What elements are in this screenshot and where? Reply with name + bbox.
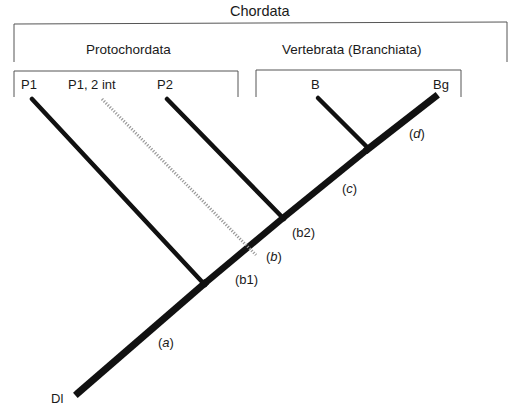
branch-p2 bbox=[167, 99, 284, 219]
node-b2-label: (b2) bbox=[292, 226, 315, 239]
vertebrata-label: Vertebrata (Branchiata) bbox=[282, 43, 422, 57]
trunk-d bbox=[368, 97, 435, 149]
vertebrata-bracket bbox=[256, 70, 461, 97]
taxon-bg: Bg bbox=[433, 78, 449, 91]
chordata-label: Chordata bbox=[230, 4, 290, 19]
node-d-label: (d) bbox=[409, 127, 425, 140]
branch-p1-2int-dotted bbox=[102, 99, 256, 255]
cladogram-canvas bbox=[0, 0, 519, 412]
node-c-label: (c) bbox=[342, 182, 357, 195]
branch-p1 bbox=[32, 99, 205, 285]
taxon-p1: P1 bbox=[21, 78, 37, 91]
branch-b bbox=[318, 98, 369, 149]
trunk-a bbox=[78, 284, 204, 393]
node-a-label: (a) bbox=[158, 336, 174, 349]
protochordata-bracket bbox=[14, 71, 238, 97]
taxon-b: B bbox=[311, 78, 320, 91]
taxon-p1-2int: P1, 2 int bbox=[68, 78, 116, 91]
node-b1-label: (b1) bbox=[235, 273, 258, 286]
taxon-dl: Dl bbox=[51, 392, 63, 405]
protochordata-label: Protochordata bbox=[86, 43, 171, 57]
node-b-label: (b) bbox=[266, 250, 282, 263]
taxon-p2: P2 bbox=[157, 78, 173, 91]
